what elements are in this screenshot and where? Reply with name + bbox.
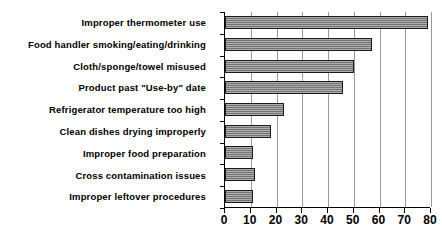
x-axis-tick-label: 0: [221, 214, 228, 226]
bar-row: [225, 142, 430, 164]
bar: [225, 16, 428, 29]
category-label-text: Improper thermometer use: [82, 18, 207, 28]
bar-row: [225, 99, 430, 121]
x-axis-tick-label: 60: [372, 214, 385, 226]
category-label-text: Improper leftover procedures: [69, 192, 206, 202]
bar: [225, 60, 354, 73]
y-axis-tick: [220, 34, 224, 35]
bar-row: [225, 120, 430, 142]
x-axis-tick-label: 20: [269, 214, 282, 226]
y-axis-tick: [220, 99, 224, 100]
bar-row: [225, 55, 430, 77]
x-axis-tick-label: 30: [295, 214, 308, 226]
x-axis-tick-labels: 01020304050607080: [224, 214, 430, 232]
category-label: Refrigerator temperature too high: [0, 99, 215, 121]
category-label-text: Improper food preparation: [83, 149, 206, 159]
category-label: Clean dishes drying improperly: [0, 121, 215, 143]
bar-row: [225, 164, 430, 186]
category-label-text: Product past "Use-by" date: [79, 83, 206, 93]
category-label-axis: Improper thermometer useFood handler smo…: [0, 12, 215, 208]
bar: [225, 38, 372, 51]
x-axis-tick-label: 80: [423, 214, 436, 226]
y-axis-tick: [220, 164, 224, 165]
bar-row: [225, 12, 430, 34]
y-axis-tick: [220, 12, 224, 13]
bars-container: [225, 12, 430, 207]
bar-row: [225, 185, 430, 207]
x-axis-tick-label: 10: [243, 214, 256, 226]
category-label-text: Refrigerator temperature too high: [49, 105, 206, 115]
category-label: Improper food preparation: [0, 143, 215, 165]
x-axis-tick-label: 70: [398, 214, 411, 226]
x-axis-tick-label: 40: [320, 214, 333, 226]
y-axis-tick: [220, 143, 224, 144]
category-label: Cross contamination issues: [0, 164, 215, 186]
category-label: Food handler smoking/eating/drinking: [0, 34, 215, 56]
y-axis-tick: [220, 56, 224, 57]
x-axis-tick-label: 50: [346, 214, 359, 226]
category-label: Product past "Use-by" date: [0, 77, 215, 99]
gridline: [431, 12, 432, 207]
y-axis-tick: [220, 77, 224, 78]
bar-chart: Improper thermometer useFood handler smo…: [0, 0, 442, 243]
y-axis-tick: [220, 121, 224, 122]
category-label-text: Cloth/sponge/towel misused: [73, 62, 206, 72]
category-label: Improper leftover procedures: [0, 186, 215, 208]
y-axis-tick-marks: [224, 12, 234, 208]
bar-row: [225, 77, 430, 99]
bar-row: [225, 34, 430, 56]
category-label-text: Clean dishes drying improperly: [59, 127, 206, 137]
category-label-text: Cross contamination issues: [75, 171, 206, 181]
plot-area: [224, 12, 430, 208]
category-label: Improper thermometer use: [0, 12, 215, 34]
category-label: Cloth/sponge/towel misused: [0, 56, 215, 78]
y-axis-tick: [220, 186, 224, 187]
category-label-text: Food handler smoking/eating/drinking: [28, 40, 206, 50]
bar: [225, 81, 343, 94]
